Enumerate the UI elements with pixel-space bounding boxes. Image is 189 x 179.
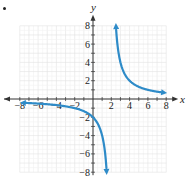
x-tick-label: 2: [109, 100, 114, 111]
y-tick-label: −6: [79, 148, 90, 159]
y-axis-label: y: [90, 1, 96, 13]
axes: [4, 15, 178, 175]
y-tick-label: 8: [85, 20, 90, 31]
y-tick-label: 6: [85, 39, 90, 50]
y-tick-label: 4: [85, 57, 90, 68]
x-tick-label: 8: [164, 100, 169, 111]
x-tick-label: −6: [33, 100, 44, 111]
y-tick-label: 2: [85, 75, 90, 86]
rational-function-graph: −8−6−4−22468−8−6−4−22468 x y: [0, 0, 189, 179]
curve-arrowhead: [113, 23, 119, 29]
curve-arrowhead: [103, 169, 109, 175]
x-tick-label: 4: [127, 100, 132, 111]
x-tick-label: 6: [145, 100, 150, 111]
x-axis-label: x: [179, 93, 185, 105]
y-tick-label: −4: [79, 130, 90, 141]
y-tick-label: −8: [79, 167, 90, 178]
